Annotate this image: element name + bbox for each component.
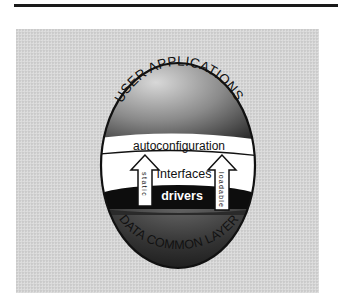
drivers-label: drivers [161,189,203,203]
static-label: static [141,172,148,197]
interfaces-label: Interfaces [157,167,212,181]
layered-egg-diagram: USER APPLICATIONS DATA COMMON LAYER auto… [0,0,338,306]
loadable-label: loadable [218,172,225,208]
autoconfiguration-label: autoconfiguration [133,139,225,153]
